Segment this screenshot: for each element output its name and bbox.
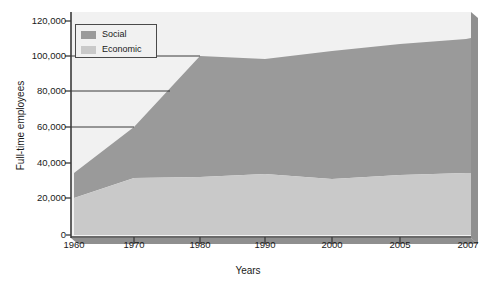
legend-item-social[interactable]: Social bbox=[81, 27, 156, 42]
legend-item-economic[interactable]: Economic bbox=[81, 42, 156, 57]
x-axis-title: Years bbox=[0, 265, 496, 276]
legend-label-economic: Economic bbox=[102, 45, 142, 54]
plot-right-shadow bbox=[471, 12, 478, 244]
series-area-economic bbox=[74, 173, 471, 235]
legend-swatch-economic bbox=[81, 46, 96, 54]
chart-legend: Social Economic bbox=[75, 24, 157, 58]
legend-swatch-social bbox=[81, 31, 96, 39]
legend-label-social: Social bbox=[102, 30, 127, 39]
y-axis-title: Full-time employees bbox=[15, 46, 26, 206]
area-chart: 120,000 100,000 80,000 60,000 40,000 20,… bbox=[0, 0, 496, 287]
